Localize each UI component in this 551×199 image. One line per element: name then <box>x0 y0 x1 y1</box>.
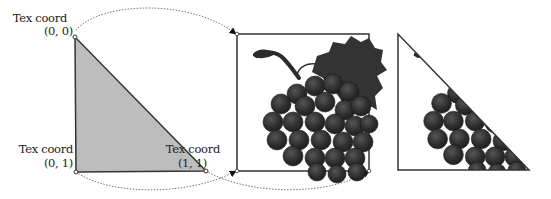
vertex-0-1 <box>74 170 78 174</box>
label-top-left-line2: (0, 0) <box>44 24 73 38</box>
diagram-canvas: Tex coord (0, 0) Tex coord (0, 1) Tex co… <box>0 0 551 199</box>
result-triangle <box>398 34 547 182</box>
label-bottom-left-line2: (0, 1) <box>44 156 73 170</box>
label-bottom-right-line1: Tex coord <box>166 142 221 156</box>
arc-top <box>76 8 236 34</box>
texture-image <box>235 32 387 183</box>
texture-mapping-diagram: Tex coord (0, 0) Tex coord (0, 1) Tex co… <box>0 0 551 199</box>
vertex-0-0 <box>73 35 77 39</box>
label-top-left-line1: Tex coord <box>13 11 68 25</box>
label-bottom-right-line2: (1, 1) <box>178 156 207 170</box>
label-bottom-left-line1: Tex coord <box>19 142 74 156</box>
